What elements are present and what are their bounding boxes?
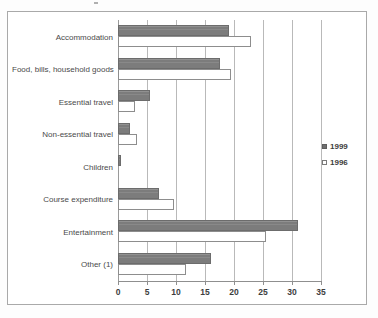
scan-speck [94, 2, 98, 4]
bar-1996-essential-travel [118, 101, 135, 112]
chart-figure: 0 5 10 15 20 25 30 35 Accommodation Food… [0, 0, 378, 318]
bar-1999-other [118, 253, 211, 264]
bar-1999-nonessential-travel [118, 123, 130, 134]
y-category-label-essential-travel: Essential travel [20, 98, 113, 107]
y-category-label-nonessential-travel: Non-essential travel [20, 130, 113, 139]
y-category-label-children: Children [20, 163, 113, 172]
legend-item-1996[interactable]: 1996 [322, 156, 366, 168]
x-tick-label-25: 25 [252, 287, 274, 297]
chart-legend: 1999 1996 [322, 140, 366, 172]
x-tick-20 [234, 281, 235, 285]
y-category-label-entertainment: Entertainment [20, 228, 113, 237]
y-category-label-course-expenditure: Course expenditure [20, 195, 113, 204]
bar-1999-food-bills [118, 58, 220, 69]
bar-1999-course-expenditure [118, 188, 159, 199]
legend-item-1999[interactable]: 1999 [322, 140, 366, 152]
bar-1999-entertainment [118, 220, 298, 231]
x-tick-label-0: 0 [107, 287, 129, 297]
bar-1996-other [118, 264, 186, 275]
x-tick-35 [321, 281, 322, 285]
x-tick-label-5: 5 [136, 287, 158, 297]
x-tick-5 [147, 281, 148, 285]
bar-1996-food-bills [118, 69, 231, 80]
bar-1999-children [118, 155, 121, 166]
x-tick-15 [205, 281, 206, 285]
x-tick-label-10: 10 [165, 287, 187, 297]
x-tick-label-30: 30 [281, 287, 303, 297]
x-tick-25 [263, 281, 264, 285]
x-tick-label-15: 15 [194, 287, 216, 297]
x-tick-0 [118, 281, 119, 285]
y-category-label-accommodation: Accommodation [20, 33, 113, 42]
gridline-30 [292, 20, 293, 281]
x-tick-label-35: 35 [310, 287, 332, 297]
x-tick-label-20: 20 [223, 287, 245, 297]
y-category-label-other: Other (1) [20, 260, 113, 269]
legend-label-1996: 1996 [330, 158, 348, 167]
bar-1996-entertainment [118, 231, 266, 242]
bar-1996-nonessential-travel [118, 134, 137, 145]
legend-label-1999: 1999 [330, 142, 348, 151]
x-tick-10 [176, 281, 177, 285]
bar-1999-essential-travel [118, 90, 150, 101]
y-category-label-food-bills: Food, bills, household goods [12, 65, 113, 74]
bar-1996-accommodation [118, 36, 251, 47]
bar-1996-course-expenditure [118, 199, 174, 210]
x-tick-30 [292, 281, 293, 285]
legend-swatch-hollow-icon [322, 160, 327, 165]
legend-swatch-filled-icon [322, 144, 327, 149]
bar-1999-accommodation [118, 25, 229, 36]
